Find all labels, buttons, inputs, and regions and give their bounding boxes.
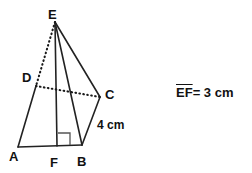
vertex-label-C: C: [105, 88, 114, 101]
edge-E-D: [36, 22, 55, 86]
geometry-figure: E D C A F B 4 cm EF= 3 cm: [0, 0, 252, 173]
right-angle-at-F: [58, 133, 70, 145]
vertex-label-E: E: [48, 8, 57, 21]
edge-E-F: [55, 22, 57, 146]
edge-A-D: [18, 86, 36, 147]
vertex-label-A: A: [9, 150, 18, 163]
edge-E-B: [55, 22, 82, 145]
vertex-label-F: F: [50, 156, 58, 169]
edge-D-C: [36, 86, 100, 97]
segment-ef-value: = 3 cm: [193, 85, 234, 100]
segment-length-note: EF= 3 cm: [176, 86, 233, 101]
vertex-label-B: B: [77, 155, 86, 168]
edge-C-E: [55, 22, 100, 97]
segment-ef-label: EF: [176, 86, 193, 101]
dimension-label-bc: 4 cm: [97, 119, 124, 131]
vertex-label-D: D: [22, 71, 31, 84]
edge-A-B: [18, 145, 82, 147]
